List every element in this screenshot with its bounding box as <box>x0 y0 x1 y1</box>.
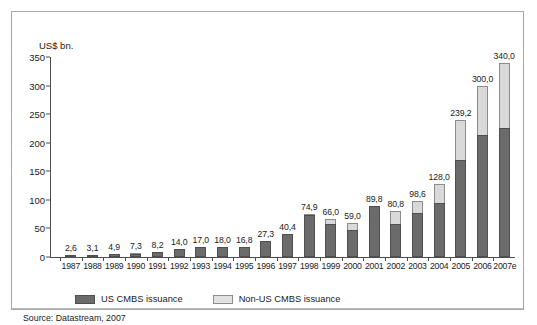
bar-segment-us[interactable] <box>434 203 445 257</box>
bar-segment-us[interactable] <box>260 241 271 257</box>
plot-area: 050100150200250300350 2,619873,119884,91… <box>50 57 515 268</box>
bar-group: 98,6 <box>412 201 423 257</box>
x-tick-label: 2004 <box>428 261 450 271</box>
x-tick-mark <box>342 257 343 261</box>
bar-segment-us[interactable] <box>130 254 141 257</box>
bar-segment-us[interactable] <box>239 247 250 257</box>
bar-group: 7,3 <box>130 253 141 257</box>
legend-label: US CMBS issuance <box>101 294 183 304</box>
bar-value-label: 18,0 <box>214 235 231 245</box>
bar-value-label: 300,0 <box>472 74 493 84</box>
bar-group: 66,0 <box>325 219 336 257</box>
x-tick-label: 2000 <box>342 261 364 271</box>
bar-segment-us[interactable] <box>195 247 206 257</box>
stacked-bar[interactable] <box>217 247 228 257</box>
bar-segment-us[interactable] <box>174 249 185 257</box>
x-tick-label: 1988 <box>82 261 104 271</box>
stacked-bar[interactable] <box>239 247 250 257</box>
x-tick-mark <box>385 257 386 261</box>
bar-segment-non-us[interactable] <box>412 201 423 213</box>
bar-group: 74,9 <box>304 214 315 257</box>
bar-segment-us[interactable] <box>347 230 358 257</box>
stacked-bar[interactable] <box>390 211 401 257</box>
stacked-bar[interactable] <box>412 201 423 257</box>
x-tick-label: 1989 <box>103 261 125 271</box>
x-tick-mark <box>190 257 191 261</box>
y-tick-mark <box>46 85 50 86</box>
stacked-bar[interactable] <box>325 219 336 257</box>
bar-group: 40,4 <box>282 234 293 257</box>
stacked-bar[interactable] <box>477 86 488 257</box>
bar-segment-us[interactable] <box>412 213 423 257</box>
bar-value-label: 27,3 <box>258 229 275 239</box>
legend-label: Non-US CMBS issuance <box>239 294 341 304</box>
stacked-bar[interactable] <box>455 120 466 257</box>
stacked-bar[interactable] <box>130 253 141 257</box>
stacked-bar[interactable] <box>347 223 358 257</box>
bar-value-label: 2,6 <box>65 243 77 253</box>
bar-segment-us[interactable] <box>282 234 293 257</box>
x-tick-mark <box>320 257 321 261</box>
legend-swatch <box>75 295 95 304</box>
bar-segment-us[interactable] <box>369 206 380 257</box>
bar-segment-non-us[interactable] <box>434 184 445 203</box>
x-tick-label: 1998 <box>298 261 320 271</box>
bar-value-label: 8,2 <box>152 240 164 250</box>
legend-item[interactable]: US CMBS issuance <box>75 294 183 304</box>
bar-segment-non-us[interactable] <box>477 86 488 136</box>
bar-value-label: 40,4 <box>279 222 296 232</box>
stacked-bar[interactable] <box>174 249 185 257</box>
x-tick-mark <box>233 257 234 261</box>
bar-segment-us[interactable] <box>477 135 488 257</box>
bar-group: 59,0 <box>347 223 358 257</box>
bar-segment-us[interactable] <box>65 255 76 257</box>
bar-segment-us[interactable] <box>217 247 228 257</box>
x-tick-label: 2006 <box>472 261 494 271</box>
stacked-bar[interactable] <box>109 254 120 257</box>
x-tick-mark <box>277 257 278 261</box>
y-axis-title: US$ bn. <box>39 40 73 51</box>
bar-group: 2,6 <box>65 255 76 257</box>
bar-segment-us[interactable] <box>455 160 466 257</box>
stacked-bar[interactable] <box>282 234 293 257</box>
bar-segment-us[interactable] <box>152 252 163 257</box>
bar-value-label: 340,0 <box>494 51 515 61</box>
bar-group: 16,8 <box>239 247 250 257</box>
x-tick-mark <box>60 257 61 261</box>
bar-segment-us[interactable] <box>87 255 98 257</box>
bar-segment-us[interactable] <box>304 215 315 257</box>
x-tick-mark <box>255 257 256 261</box>
bar-segment-us[interactable] <box>109 254 120 257</box>
bar-segment-us[interactable] <box>390 224 401 257</box>
legend-item[interactable]: Non-US CMBS issuance <box>213 294 341 304</box>
bar-segment-non-us[interactable] <box>455 120 466 160</box>
bar-segment-non-us[interactable] <box>499 63 510 129</box>
bar-group: 4,9 <box>109 254 120 257</box>
bar-segment-us[interactable] <box>325 224 336 257</box>
stacked-bar[interactable] <box>152 252 163 257</box>
chart-figure: US$ bn. 050100150200250300350 2,619873,1… <box>11 11 524 310</box>
stacked-bar[interactable] <box>65 255 76 257</box>
y-tick-mark <box>46 228 50 229</box>
x-tick-label: 1997 <box>277 261 299 271</box>
stacked-bar[interactable] <box>434 184 445 257</box>
stacked-bar[interactable] <box>260 241 271 257</box>
x-tick-mark <box>147 257 148 261</box>
bar-value-label: 14,0 <box>171 237 188 247</box>
y-tick-mark <box>46 114 50 115</box>
stacked-bar[interactable] <box>499 63 510 257</box>
bar-segment-us[interactable] <box>499 128 510 257</box>
x-tick-mark <box>472 257 473 261</box>
stacked-bar[interactable] <box>369 206 380 257</box>
x-tick-label: 2007e <box>493 261 515 271</box>
x-tick-label: 1987 <box>60 261 82 271</box>
stacked-bar[interactable] <box>195 247 206 257</box>
bar-segment-non-us[interactable] <box>347 223 358 230</box>
stacked-bar[interactable] <box>87 255 98 257</box>
y-tick-mark <box>46 57 50 58</box>
x-tick-label: 1999 <box>320 261 342 271</box>
stacked-bar[interactable] <box>304 214 315 257</box>
bar-segment-non-us[interactable] <box>390 211 401 225</box>
bar-group: 3,1 <box>87 255 98 257</box>
x-tick-mark <box>428 257 429 261</box>
